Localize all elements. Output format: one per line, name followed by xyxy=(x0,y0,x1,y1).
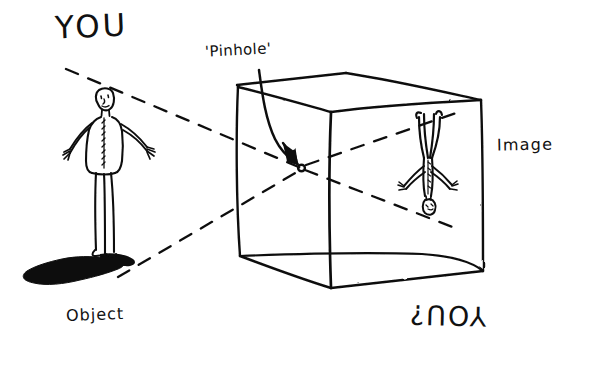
label-pinhole: 'Pinhole' xyxy=(205,39,272,60)
box-edge-top-front xyxy=(238,87,331,112)
label-you-bottom-inverted: YOU? xyxy=(408,299,487,332)
pinhole-camera-diagram: YOU 'Pinhole' Image Object YOU? xyxy=(0,0,591,366)
object-shadow xyxy=(23,253,135,284)
pinhole-box xyxy=(237,73,483,288)
box-edge-front-left xyxy=(237,86,240,256)
upper-ray-dashed xyxy=(66,69,301,168)
box-edge-top-middle-right xyxy=(331,100,481,112)
lower-ray-dashed xyxy=(118,172,297,277)
pinhole-pointer-arrow xyxy=(259,70,297,164)
image-person-figure-inverted xyxy=(398,111,458,215)
light-rays xyxy=(66,69,456,277)
label-image: Image xyxy=(497,135,553,155)
box-edge-top-left xyxy=(237,73,346,85)
box-edge-right-vertical xyxy=(481,100,483,271)
label-object: Object xyxy=(66,304,125,325)
box-edge-top-back xyxy=(346,73,481,100)
box-edge-bottom-front-right xyxy=(331,271,483,288)
label-you-top: YOU xyxy=(54,6,129,45)
object-person-figure xyxy=(63,88,155,256)
box-edge-bottom-front-left xyxy=(240,256,331,288)
box-edge-middle-vertical xyxy=(330,112,332,288)
